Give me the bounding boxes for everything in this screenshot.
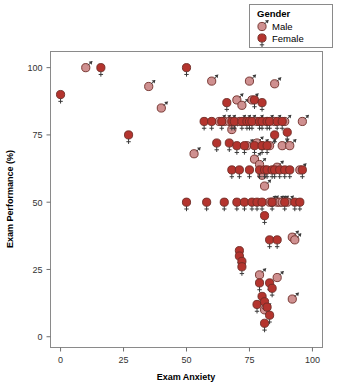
y-tick-label: 75 — [32, 130, 42, 140]
y-tick-label: 0 — [37, 332, 42, 342]
legend-label-male: Male — [272, 21, 293, 32]
y-tick-label: 25 — [32, 265, 42, 275]
x-tick-label: 50 — [181, 355, 191, 365]
x-tick-label: 75 — [244, 355, 254, 365]
y-tick-label: 100 — [27, 63, 42, 73]
x-tick-label: 100 — [305, 355, 320, 365]
scatter-plot-figure: 0255075100 0255075100 Exam Anxiety Exam … — [0, 0, 337, 387]
legend: Gender Male Female — [250, 5, 333, 48]
x-tick-label: 25 — [119, 355, 129, 365]
legend-title: Gender — [257, 8, 291, 19]
x-axis-title: Exam Anxiety — [157, 372, 216, 382]
y-tick-label: 50 — [32, 198, 42, 208]
legend-label-female: Female — [272, 33, 304, 44]
y-axis-title: Exam Performance (%) — [5, 150, 15, 248]
x-tick-label: 0 — [58, 355, 63, 365]
